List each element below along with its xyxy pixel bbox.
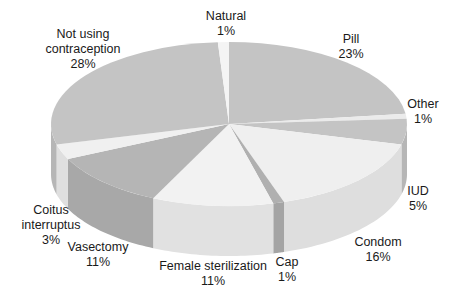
label-not-using-contraception: Not usingcontraception28%: [45, 27, 120, 72]
pie-side-female-sterilization: [153, 198, 273, 256]
label-natural: Natural1%: [206, 9, 246, 39]
label-pill: Pill23%: [338, 32, 363, 62]
pie-slice-pill: [229, 42, 406, 124]
label-female-sterilization: Female sterilization11%: [159, 259, 267, 289]
label-other: Other1%: [407, 97, 438, 127]
label-iud: IUD5%: [407, 184, 429, 214]
label-condom: Condom16%: [354, 235, 401, 265]
label-cap: Cap1%: [276, 255, 299, 285]
pie-side-cap: [273, 202, 284, 253]
label-coitus-interruptus: Coitusinterruptus3%: [21, 203, 80, 248]
